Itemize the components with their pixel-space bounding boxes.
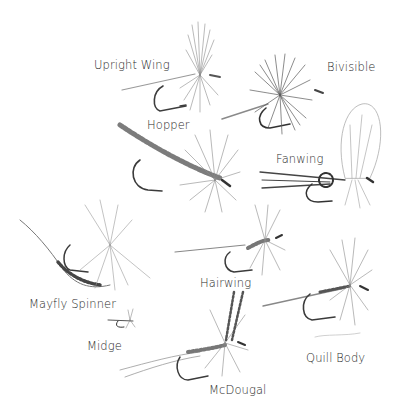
artist-signature-icon xyxy=(315,333,360,337)
label-midge: Midge xyxy=(87,339,122,353)
label-fanwing: Fanwing xyxy=(276,152,323,166)
bivisible-fly-icon xyxy=(222,54,323,134)
label-hopper: Hopper xyxy=(147,118,190,132)
label-quill-body: Quill Body xyxy=(306,351,365,365)
hairwing-fly-icon xyxy=(175,205,285,275)
label-bivisible: Bivisible xyxy=(327,60,375,74)
hopper-fly-icon xyxy=(120,125,240,212)
midge-fly-icon xyxy=(108,309,135,328)
label-hairwing: Hairwing xyxy=(200,276,251,290)
mayfly-spinner-fly-icon xyxy=(20,200,150,290)
label-mcdougal: McDougal xyxy=(209,383,266,397)
mcdougal-fly-icon xyxy=(120,292,248,380)
label-mayfly-spinner: Mayfly Spinner xyxy=(29,297,116,311)
label-upright-wing: Upright Wing xyxy=(94,58,170,72)
quill-body-fly-icon xyxy=(263,238,372,337)
fly-illustration: Upright Wing Bivisible Hopper Fanwing Ha… xyxy=(0,0,406,418)
